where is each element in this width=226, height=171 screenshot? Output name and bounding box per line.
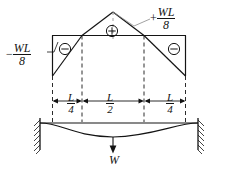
negative-symbol-right-icon [168,43,179,54]
label-load: W [109,153,119,168]
dim-arrow-5 [145,99,151,104]
label-negative-sign: − [6,47,13,62]
fraction-positive-denominator: 8 [157,19,176,31]
dim-arrow-1 [53,99,59,104]
deflected-beam-curve [40,123,198,137]
fraction-dim-middle-denominator: 2 [106,104,114,115]
dim-arrow-4 [139,99,145,104]
fraction-negative-denominator: 8 [13,55,32,67]
moment-line-rising [82,12,113,36]
bmd-drawing [0,0,226,171]
fraction-dim-right: L4 [166,92,174,115]
negative-symbol-left-icon [59,43,70,54]
positive-symbol-center-icon [106,25,117,36]
label-dimension-left: L4 [67,92,75,115]
figure-canvas: −WL8 +WL8 L4 L2 L4 W [0,0,226,171]
leader-line-positive [113,12,150,26]
dim-arrow-2 [77,99,83,104]
fraction-negative: WL8 [13,42,32,67]
right-moment-line [144,36,186,77]
fraction-dim-right-denominator: 4 [166,104,174,115]
fraction-dim-left: L4 [67,92,75,115]
fraction-dim-left-denominator: 4 [67,104,75,115]
label-negative-moment: −WL8 [6,42,31,67]
left-fixed-support [34,118,40,154]
fraction-positive: WL8 [157,6,176,31]
dim-arrow-3 [83,99,89,104]
label-positive-moment: +WL8 [150,6,175,31]
left-moment-line [53,36,83,77]
right-fixed-support [198,118,204,154]
label-dimension-right: L4 [166,92,174,115]
fraction-dim-middle: L2 [106,92,114,115]
label-positive-sign: + [150,11,157,26]
label-dimension-middle: L2 [106,92,114,115]
dim-arrow-6 [180,99,186,104]
